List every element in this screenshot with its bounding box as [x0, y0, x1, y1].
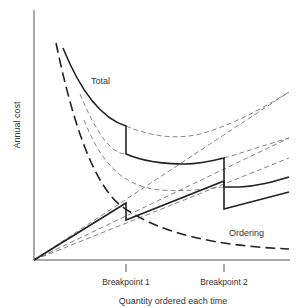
y-axis-label: Annual cost — [12, 101, 22, 149]
holding-cost-line — [34, 181, 289, 260]
total-dashed-curves — [80, 92, 289, 191]
label-total: Total — [91, 76, 110, 86]
label-ordering: Ordering — [229, 228, 264, 238]
ordering-cost-curve — [56, 43, 289, 249]
chart: Total Ordering Breakpoint 1 Breakpoint 2… — [0, 0, 305, 308]
x-axis-label: Quantity ordered each time — [119, 296, 228, 306]
x-tick-label-breakpoint-2: Breakpoint 2 — [200, 277, 248, 287]
x-tick-label-breakpoint-1: Breakpoint 1 — [102, 277, 150, 287]
